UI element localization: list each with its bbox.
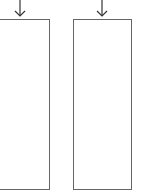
down-arrow-icon-left: [14, 0, 26, 18]
right-panel-box: [73, 19, 132, 190]
left-panel-box: [0, 19, 50, 190]
down-arrow-icon-right: [96, 0, 108, 18]
